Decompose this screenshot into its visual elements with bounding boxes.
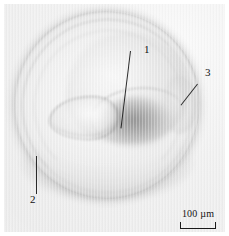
bottom-shadow <box>22 124 192 200</box>
annotation-label-2: 2 <box>30 194 36 205</box>
micrograph-plate: 1 2 3 100 µm <box>4 4 225 232</box>
scale-bar-rule <box>180 222 216 229</box>
photomicrograph-figure: 1 2 3 100 µm <box>0 0 229 236</box>
scale-bar-label: 100 µm <box>180 208 216 219</box>
annotation-label-3: 3 <box>205 67 211 78</box>
annotation-label-1: 1 <box>144 44 150 55</box>
scale-bar: 100 µm <box>180 208 216 229</box>
leader-line-2 <box>36 156 37 194</box>
